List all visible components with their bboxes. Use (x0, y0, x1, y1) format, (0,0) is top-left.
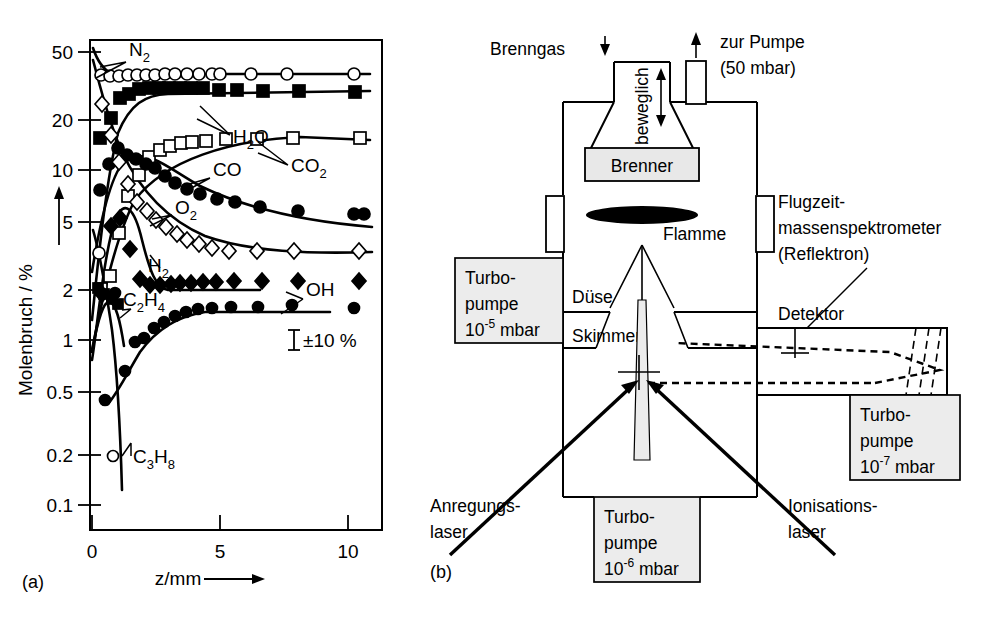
y-axis-title-group: Molenbruch / % (15, 186, 64, 396)
y-tick-0p2: 0.2 (47, 445, 73, 466)
left-flange (546, 196, 564, 252)
label-c3h8-group: C3H8 (122, 443, 175, 472)
turbopump-right-line2: pumpe (860, 431, 914, 451)
label-co: CO (213, 159, 242, 180)
x-tick-0: 0 (87, 541, 98, 562)
turbopump-right-pressure: 10-7 mbar (860, 454, 935, 477)
chart-curves (92, 48, 372, 490)
y-tick-0p1: 0.1 (47, 495, 73, 516)
turbopump-bottom-pressure: 10-6 mbar (604, 556, 679, 579)
right-flange (756, 196, 774, 252)
label-h2o: H2O (233, 126, 269, 152)
y-axis-arrow-head (54, 186, 64, 199)
x-axis-tick-labels: 0 5 10 (87, 541, 359, 562)
turbopump-left-pressure: 10-5 mbar (465, 317, 540, 340)
label-brenner: Brenner (611, 156, 673, 176)
curve-oh (108, 312, 330, 404)
detector-symbol (781, 328, 809, 358)
y-tick-1: 1 (62, 330, 73, 351)
turbopump-bottom-line1: Turbo- (604, 507, 655, 527)
label-anregungslaser-1: Anregungs- (430, 496, 521, 516)
label-oh: OH (306, 279, 335, 300)
label-tof-line3: (Reflektron) (778, 244, 869, 264)
x-axis-title-group: z/mm (155, 568, 265, 589)
label-brenngas: Brenngas (490, 39, 565, 59)
x-tick-10: 10 (337, 541, 358, 562)
label-detektor: Detektor (778, 304, 844, 324)
turbopump-left-line1: Turbo- (465, 268, 516, 288)
error-bar-annotation: ±10 % (288, 330, 357, 351)
apparatus-svg: beweglich Brenngas zur Pumpe (50 mbar) B… (420, 0, 990, 619)
label-anregungslaser-2: laser (430, 522, 468, 542)
figure-root: 50 20 10 5 2 1 0.5 0.2 0.1 0 5 10 (0, 0, 990, 619)
x-axis-title: z/mm (155, 568, 201, 589)
x-axis-ticks (92, 515, 348, 530)
label-flamme: Flamme (663, 224, 726, 244)
label-n2: N2 (129, 39, 150, 65)
label-tof-line2: massenspektrometer (778, 218, 942, 238)
label-tof-line1: Flugzeit- (778, 192, 845, 212)
x-tick-5: 5 (215, 541, 226, 562)
y-axis-title: Molenbruch / % (15, 264, 36, 396)
turbopump-left-line2: pumpe (465, 294, 519, 314)
panel-a-tag: (a) (22, 572, 44, 592)
label-co2: CO2 (291, 155, 327, 181)
label-c2h4-group: C2H4 (120, 289, 165, 318)
movable-arrow (656, 68, 666, 127)
label-co-group: CO (184, 159, 242, 192)
panel-b-tag: (b) (430, 562, 452, 582)
molecular-beam (634, 300, 650, 460)
error-bar-label: ±10 % (303, 330, 357, 351)
y-tick-0p5: 0.5 (47, 382, 73, 403)
markers-misc-open (93, 247, 105, 259)
zur-pumpe-arrow (691, 32, 701, 58)
turbopump-bottom-line2: pumpe (604, 533, 658, 553)
panel-b-apparatus: beweglich Brenngas zur Pumpe (50 mbar) B… (420, 0, 990, 619)
y-tick-50: 50 (52, 42, 73, 63)
label-ionisationslaser-2: laser (788, 522, 826, 542)
markers-c3h8 (108, 451, 119, 462)
panel-a-chart: 50 20 10 5 2 1 0.5 0.2 0.1 0 5 10 (0, 0, 420, 619)
reflectron-grids (906, 328, 941, 395)
y-tick-20: 20 (52, 110, 73, 131)
label-o2: O2 (175, 197, 197, 223)
brenngas-arrow (600, 36, 610, 56)
label-ionisationslaser-1: Ionisations- (788, 496, 878, 516)
pump-port (686, 61, 706, 104)
label-c3h8: C3H8 (133, 446, 175, 472)
label-zur-pumpe: zur Pumpe (720, 32, 805, 52)
label-duese: Düse (572, 287, 613, 307)
label-skimmer: Skimmer (572, 326, 641, 346)
x-axis-arrow-head (252, 574, 265, 584)
label-o2-group: O2 (150, 197, 197, 226)
chart-svg: 50 20 10 5 2 1 0.5 0.2 0.1 0 5 10 (0, 0, 420, 619)
y-axis-tick-labels: 50 20 10 5 2 1 0.5 0.2 0.1 (47, 42, 73, 516)
y-tick-5: 5 (62, 212, 73, 233)
label-beweglich: beweglich (632, 67, 652, 145)
turbopump-right-line1: Turbo- (860, 405, 911, 425)
y-tick-2: 2 (62, 280, 73, 301)
y-tick-10: 10 (52, 160, 73, 181)
label-oh-group: OH (281, 279, 335, 314)
label-zur-pumpe-pressure: (50 mbar) (720, 58, 796, 78)
flame-ellipse (586, 206, 698, 224)
label-co2-group: CO2 (258, 142, 327, 181)
